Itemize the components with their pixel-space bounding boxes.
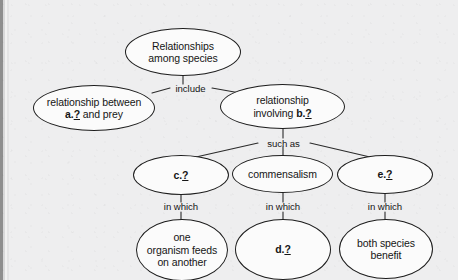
node-predator-prey-text: relationship between a.? and prey	[41, 96, 147, 121]
node-e-text: e.?	[372, 168, 399, 180]
node-predation-definition-text: one organism feeds on another	[141, 231, 223, 268]
node-mutualism-definition-text: both species benefit	[351, 237, 421, 262]
blank-c-answer[interactable]: ?	[182, 169, 188, 181]
blank-c-prefix: c.	[174, 169, 183, 181]
such-as-text: such as	[267, 138, 300, 149]
blank-e-prefix: e.	[378, 168, 387, 180]
node-symbiosis-prefix: involving	[253, 107, 296, 119]
blank-a-prefix: a.	[65, 108, 74, 120]
node-predator-prey-suffix: and prey	[80, 108, 123, 120]
predation-def-line1: one	[173, 231, 190, 243]
node-commensalism-text: commensalism	[242, 168, 323, 180]
connector-label-include: include	[168, 83, 213, 94]
predation-def-line3: on another	[157, 256, 206, 268]
node-c-blank[interactable]: c.?	[133, 155, 229, 195]
node-symbiosis-line1: relationship	[256, 94, 309, 106]
node-root-line1: Relationships	[152, 40, 214, 52]
in-which-left-text: in which	[164, 201, 198, 212]
node-commensalism[interactable]: commensalism	[232, 155, 333, 193]
node-root-line2: among species	[148, 52, 217, 64]
node-predator-prey[interactable]: relationship between a.? and prey	[33, 85, 155, 131]
mutualism-def-line1: both species	[357, 237, 415, 249]
connector-label-in-which-right: in which	[360, 201, 410, 212]
blank-e-answer[interactable]: ?	[386, 168, 392, 180]
mutualism-def-line2: benefit	[371, 249, 402, 261]
predation-def-line2: organism feeds	[147, 244, 217, 256]
blank-d-answer[interactable]: ?	[284, 243, 290, 255]
node-d-text: d.?	[269, 243, 296, 255]
node-e-blank[interactable]: e.?	[337, 155, 433, 194]
node-c-text: c.?	[168, 169, 195, 181]
node-mutualism-definition[interactable]: both species benefit	[339, 219, 433, 279]
blank-b-prefix: b.	[296, 107, 305, 119]
node-root-text: Relationships among species	[142, 40, 223, 65]
connector-label-in-which-left: in which	[156, 201, 206, 212]
node-predator-prey-line1: relationship between	[47, 96, 141, 108]
in-which-right-text: in which	[368, 201, 402, 212]
connector-label-in-which-center: in which	[258, 201, 308, 212]
concept-map-canvas: Relationships among species include rela…	[0, 0, 458, 280]
connector-label-such-as: such as	[259, 138, 308, 149]
edge-suchas-to-e	[310, 143, 370, 157]
include-text: include	[175, 83, 205, 94]
node-symbiosis[interactable]: relationship involving b.?	[220, 84, 345, 129]
node-root[interactable]: Relationships among species	[125, 28, 241, 76]
blank-b-answer[interactable]: ?	[305, 107, 311, 119]
node-predation-definition[interactable]: one organism feeds on another	[136, 219, 228, 280]
in-which-center-text: in which	[266, 201, 300, 212]
node-d-blank[interactable]: d.?	[235, 219, 331, 280]
node-symbiosis-text: relationship involving b.?	[247, 94, 317, 119]
edge-suchas-to-c	[196, 143, 258, 157]
